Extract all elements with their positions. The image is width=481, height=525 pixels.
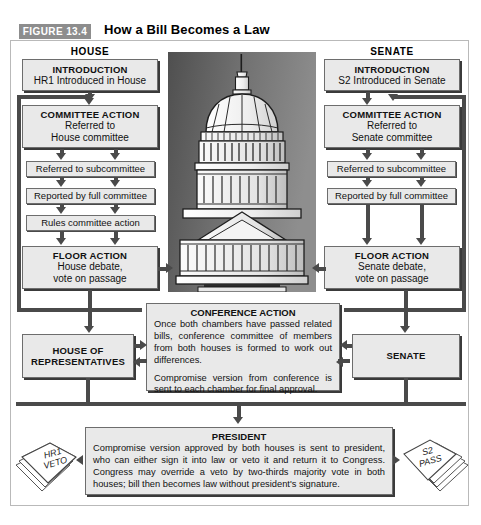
us-capitol-illustration (168, 52, 316, 292)
arrow-senate-full-to-floor-left (362, 238, 372, 245)
house-floor-action-box: FLOOR ACTION House debate, vote on passa… (22, 246, 158, 289)
connector-senate-bypass-rail-vertical (462, 95, 466, 312)
senate-chamber-box: SENATE (352, 334, 460, 378)
arrow-senate-committee-to-sub-left (362, 153, 372, 160)
arrow-senate-sub-to-full-right (416, 180, 426, 187)
arrow-senate-sub-to-full-left (362, 180, 372, 187)
senate-floor-action-line2: vote on passage (355, 273, 428, 285)
house-full-committee-label: Reported by full committee (34, 190, 147, 201)
senate-full-committee-label: Reported by full committee (335, 190, 448, 201)
conference-action-box: CONFERENCE ACTION Once both chambers hav… (146, 303, 340, 391)
connector-house-chamber-down-to-bus (86, 378, 90, 404)
senate-subcommittee-label: Referred to subcommittee (337, 163, 446, 174)
house-subcommittee-label: Referred to subcommittee (36, 163, 145, 174)
arrow-house-sub-to-full-right (110, 180, 120, 187)
arrow-house-full-to-rules-right (110, 207, 120, 214)
senate-committee-action-title: COMMITTEE ACTION (343, 109, 442, 120)
house-floor-action-title: FLOOR ACTION (53, 250, 127, 261)
conference-action-paragraph-2: Compromise version from conference is se… (154, 373, 332, 397)
arrow-president-to-hr1-veto (76, 455, 83, 465)
arrow-house-rules-to-floor-left (56, 238, 66, 245)
senate-floor-action-box: FLOOR ACTION Senate debate, vote on pass… (324, 246, 460, 289)
arrow-house-floor-to-capitol (166, 263, 173, 273)
president-paragraph-1: Compromise version approved by both hous… (93, 443, 385, 491)
senate-full-committee-box: Reported by full committee (327, 188, 456, 204)
arrow-bus-to-president (233, 417, 243, 424)
arrow-senate-floor-to-chamber (400, 326, 410, 333)
arrow-senate-bypass-into-committee (388, 94, 398, 101)
arrow-senate-floor-to-capitol (312, 263, 319, 273)
connector-conference-return-to-house (137, 308, 142, 312)
figure-number-badge: FIGURE 13.4 (19, 24, 91, 39)
president-title: PRESIDENT (93, 431, 385, 442)
connector-bottom-bus (16, 402, 466, 406)
senate-introduction-body: S2 Introduced in Senate (338, 75, 445, 87)
arrow-senate-chamber-to-conference (340, 340, 347, 350)
arrow-house-floor-to-chamber (84, 326, 94, 333)
house-chamber-line2: REPRESENTATIVES (31, 356, 125, 367)
connector-house-floor-to-chamber (88, 290, 92, 326)
house-introduction-title: INTRODUCTION (52, 64, 127, 75)
house-committee-action-box: COMMITTEE ACTION Referred to House commi… (22, 105, 158, 148)
house-subcommittee-box: Referred to subcommittee (26, 161, 155, 177)
connector-house-bypass-rail-bottom (17, 308, 137, 312)
connector-bus-to-president (237, 402, 241, 418)
house-floor-action-line1: House debate, (57, 261, 122, 273)
connector-house-bypass-rail-vertical (17, 95, 21, 312)
arrow-house-sub-to-full-left (56, 180, 66, 187)
senate-introduction-box: INTRODUCTION S2 Introduced in Senate (324, 59, 460, 91)
president-box: PRESIDENT Compromise version approved by… (85, 427, 393, 495)
house-introduction-box: INTRODUCTION HR1 Introduced in House (22, 59, 158, 91)
connector-senate-floor-to-chamber (404, 290, 408, 326)
house-full-committee-box: Reported by full committee (26, 188, 155, 204)
arrow-conference-return-to-senate (336, 357, 343, 367)
house-of-representatives-box: HOUSE OF REPRESENTATIVES (22, 334, 134, 378)
conference-action-title: CONFERENCE ACTION (154, 307, 332, 318)
senate-committee-action-line1: Referred to (367, 120, 417, 132)
figure-title: How a Bill Becomes a Law (104, 22, 270, 37)
arrow-house-full-to-rules-left (56, 207, 66, 214)
arrow-senate-committee-to-sub-right (416, 153, 426, 160)
conference-action-paragraph-1: Once both chambers have passed related b… (154, 319, 332, 367)
house-rules-committee-label: Rules committee action (41, 217, 140, 228)
figure-header: FIGURE 13.4 How a Bill Becomes a Law (0, 10, 481, 34)
senate-floor-action-title: FLOOR ACTION (355, 250, 429, 261)
house-committee-action-title: COMMITTEE ACTION (41, 109, 140, 120)
house-committee-action-line1: Referred to (65, 120, 115, 132)
connector-senate-full-to-floor-right (420, 205, 424, 238)
column-heading-senate: SENATE (322, 46, 462, 57)
column-heading-house: HOUSE (20, 46, 160, 57)
senate-chamber-line1: SENATE (386, 350, 425, 361)
connector-conference-return-house-line (137, 359, 147, 363)
house-introduction-body: HR1 Introduced in House (34, 75, 146, 87)
senate-introduction-title: INTRODUCTION (354, 64, 429, 75)
connector-house-bypass-rail-top (17, 95, 89, 99)
senate-subcommittee-box: Referred to subcommittee (327, 161, 456, 177)
arrow-house-committee-to-sub-left (56, 153, 66, 160)
connector-senate-bypass-rail-top (392, 95, 466, 99)
arrow-senate-intro-to-committee (362, 98, 372, 105)
arrow-house-rules-to-floor-right (110, 238, 120, 245)
arrow-president-to-s2-pass (393, 455, 400, 465)
senate-floor-action-line1: Senate debate, (358, 261, 426, 273)
senate-committee-action-line2: Senate committee (352, 132, 433, 144)
connector-senate-full-to-floor-left (366, 205, 370, 238)
arrow-senate-full-to-floor-right (416, 238, 426, 245)
arrow-house-bypass-into-committee (85, 94, 95, 101)
house-rules-committee-box: Rules committee action (26, 215, 155, 231)
connector-senate-chamber-down-to-bus (404, 378, 408, 404)
arrow-house-chamber-to-conference (140, 340, 147, 350)
senate-committee-action-box: COMMITTEE ACTION Referred to Senate comm… (324, 105, 460, 148)
house-floor-action-line2: vote on passage (53, 273, 126, 285)
arrow-house-committee-to-sub-right (110, 153, 120, 160)
house-committee-action-line2: House committee (51, 132, 129, 144)
house-chamber-line1: HOUSE OF (52, 345, 103, 356)
s2-pass-document-stack: S2 PASS (396, 430, 470, 496)
